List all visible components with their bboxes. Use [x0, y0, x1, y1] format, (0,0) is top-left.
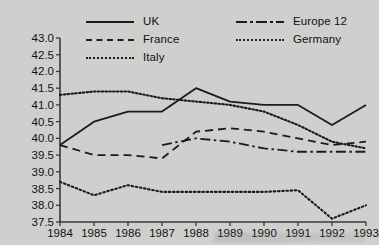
series-line-germany	[60, 92, 366, 149]
series-line-france	[60, 128, 366, 158]
footer-artifact	[214, 233, 364, 242]
series-line-italy	[60, 182, 366, 219]
